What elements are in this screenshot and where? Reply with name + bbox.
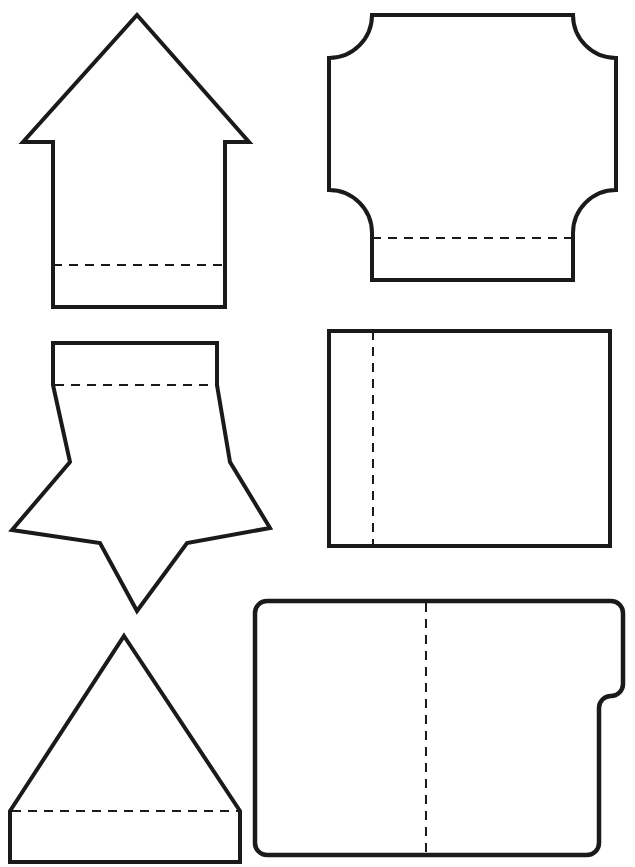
- shapes-canvas: [0, 0, 635, 867]
- shape-triangle-with-tab[interactable]: [10, 636, 240, 862]
- shape-concave-square-outline[interactable]: [329, 15, 616, 280]
- shape-star-with-tab-outline[interactable]: [12, 343, 270, 611]
- shape-notched-rounded-rect[interactable]: [255, 601, 623, 855]
- shape-rectangle-fold[interactable]: [329, 331, 610, 546]
- shape-notched-rounded-rect-outline[interactable]: [255, 601, 623, 855]
- shape-rectangle-fold-outline[interactable]: [329, 331, 610, 546]
- shape-triangle-with-tab-outline[interactable]: [10, 636, 240, 862]
- shape-star-with-tab[interactable]: [12, 343, 270, 611]
- shape-arrow-up-outline[interactable]: [23, 15, 249, 307]
- shape-concave-square[interactable]: [329, 15, 616, 280]
- worksheet-page: [0, 0, 635, 867]
- shape-arrow-up[interactable]: [23, 15, 249, 307]
